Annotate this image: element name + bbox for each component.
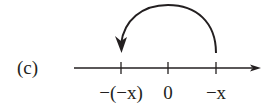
tick-label-zero: 0: [163, 82, 173, 103]
number-line-diagram: (c) −(−x) 0 −x: [0, 0, 263, 104]
reflection-arc: [121, 5, 216, 53]
tick-label-neg-x: −x: [206, 82, 227, 103]
tick-label-neg-neg-x: −(−x): [99, 82, 143, 104]
figure-label: (c): [17, 57, 38, 79]
